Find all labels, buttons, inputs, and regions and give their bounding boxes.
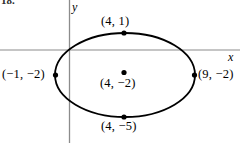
point-marker-center bbox=[121, 70, 126, 75]
point-label-center: (4, −2) bbox=[100, 77, 136, 90]
problem-number: 18. bbox=[1, 0, 15, 6]
point-marker-top-covertex bbox=[121, 30, 126, 35]
ellipse-curve bbox=[55, 33, 195, 117]
ellipse-figure: 18. y x (4, 1) (−1, −2) (9, −2) (4, −2) … bbox=[0, 0, 240, 143]
point-label-left-vertex: (−1, −2) bbox=[2, 68, 45, 81]
point-label-bottom-covertex: (4, −5) bbox=[101, 120, 137, 133]
y-axis-label: y bbox=[72, 1, 77, 13]
point-label-right-vertex: (9, −2) bbox=[198, 68, 234, 81]
point-label-top-covertex: (4, 1) bbox=[101, 15, 129, 28]
point-marker-left-vertex bbox=[53, 72, 58, 77]
point-marker-right-vertex bbox=[192, 72, 197, 77]
x-axis-label: x bbox=[228, 51, 233, 63]
